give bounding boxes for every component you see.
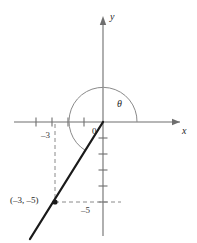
x-axis-label: x	[182, 126, 186, 136]
x-axis-arrow-icon	[172, 119, 180, 125]
theta-angle-label: θ	[117, 99, 122, 109]
diagram-canvas	[0, 0, 197, 243]
plotted-point	[52, 199, 57, 204]
x-tick-label-minus-3: –3	[41, 131, 50, 140]
origin-label: 0	[92, 127, 97, 136]
y-tick-label-minus-5: –5	[81, 206, 90, 215]
angle-diagram: y x θ 0 –3 –5 (–3, –5)	[0, 0, 197, 243]
point-coordinate-label: (–3, –5)	[10, 196, 39, 205]
y-axis-arrow-icon	[100, 16, 106, 25]
y-axis-label: y	[110, 12, 114, 22]
